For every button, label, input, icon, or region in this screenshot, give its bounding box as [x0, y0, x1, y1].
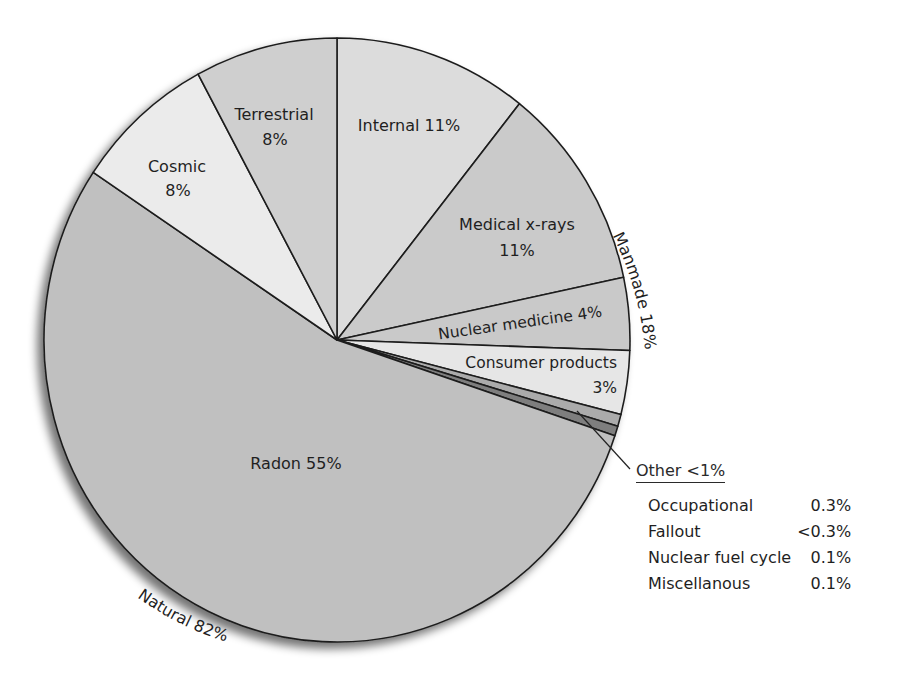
label-medical-name: Medical x-rays	[459, 215, 575, 234]
other-row-label: Nuclear fuel cycle	[648, 545, 791, 571]
other-row-value: 0.3%	[791, 493, 851, 519]
other-row-label: Occupational	[648, 493, 791, 519]
label-cosmic-pct: 8%	[165, 181, 190, 200]
other-table: Occupational 0.3% Fallout <0.3% Nuclear …	[648, 493, 851, 597]
label-internal: Internal 11%	[358, 116, 460, 135]
other-breakdown: Other <1% Occupational 0.3% Fallout <0.3…	[636, 461, 876, 597]
label-terrestrial-name: Terrestrial	[233, 105, 313, 124]
label-consumer-name: Consumer products	[465, 354, 617, 372]
label-radon: Radon 55%	[250, 454, 341, 473]
other-title: Other <1%	[636, 461, 725, 483]
pie	[44, 38, 630, 642]
other-row: Miscellanous 0.1%	[648, 571, 851, 597]
label-cosmic-name: Cosmic	[148, 157, 206, 176]
label-consumer-pct: 3%	[592, 379, 617, 397]
other-row: Nuclear fuel cycle 0.1%	[648, 545, 851, 571]
other-row: Occupational 0.3%	[648, 493, 851, 519]
label-medical-pct: 11%	[499, 241, 535, 260]
other-row-value: <0.3%	[791, 519, 851, 545]
other-row-label: Fallout	[648, 519, 791, 545]
label-terrestrial-pct: 8%	[262, 130, 287, 149]
other-row-label: Miscellanous	[648, 571, 791, 597]
other-row-value: 0.1%	[791, 545, 851, 571]
other-row-value: 0.1%	[791, 571, 851, 597]
other-row: Fallout <0.3%	[648, 519, 851, 545]
